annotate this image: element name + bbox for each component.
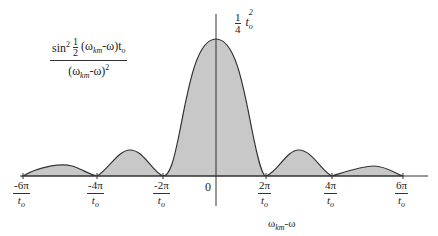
tick-label-6pi: 6πto	[395, 180, 408, 209]
tick-label-2pi: 2πto	[258, 180, 271, 209]
tick-label-neg2pi: -2πto	[153, 180, 170, 209]
sin-text: sin2	[52, 40, 70, 56]
denominator: (ωkm-ω)2	[68, 61, 109, 80]
tick-label-neg4pi: -4πto	[87, 180, 104, 209]
x-axis-label: ωkm-ω	[268, 218, 295, 232]
function-formula: sin2 12 (ωkm-ω)to (ωkm-ω)2	[50, 37, 127, 80]
tick-label-zero: 0	[205, 181, 211, 193]
plot-canvas	[0, 0, 438, 236]
peak-label: 14 to2	[234, 12, 257, 35]
tick-label-neg6pi: -6πto	[13, 180, 30, 209]
tick-label-4pi: 4πto	[324, 180, 337, 209]
half-fraction: 12	[73, 37, 78, 58]
numerator-arg: (ωkm-ω)to	[81, 39, 125, 55]
